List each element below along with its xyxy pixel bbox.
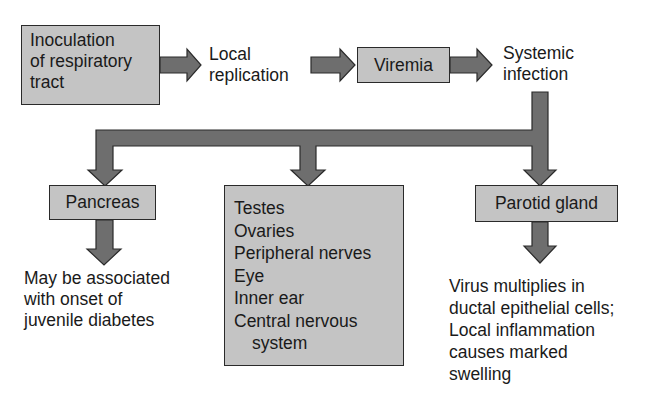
site-item: Central nervous [234,310,403,333]
site-item-continuation: system [234,332,403,355]
branch-arrow-tree-icon [88,92,556,186]
systemic-infection-line-2: infection [503,64,574,85]
systemic-infection-label: Systemic infection [503,43,574,85]
parotid-outcome-line: ductal epithelial cells; [449,297,614,319]
arrow-right-icon [160,49,201,81]
pancreas-outcome-line: May be associated [24,268,170,289]
site-item: Ovaries [234,220,403,243]
viremia-box: Viremia [357,47,450,83]
inoculation-line-1: Inoculation [30,30,159,51]
inoculation-box: Inoculation of respiratory tract [21,25,160,105]
local-replication-line-2: replication [209,65,289,86]
pancreas-outcome: May be associated with onset of juvenile… [24,268,170,331]
arrow-down-icon [524,222,556,263]
pancreas-outcome-line: juvenile diabetes [24,310,170,331]
arrow-down-icon [87,220,121,265]
inoculation-line-2: of respiratory [30,51,159,72]
systemic-infection-line-1: Systemic [503,43,574,64]
viremia-label: Viremia [374,55,433,76]
inoculation-line-3: tract [30,72,159,93]
site-item: Peripheral nerves [234,242,403,265]
site-item: Eye [234,265,403,288]
parotid-box: Parotid gland [475,185,618,222]
parotid-outcome-line: Virus multiplies in [449,275,614,297]
parotid-label: Parotid gland [495,193,598,214]
other-sites-box: Testes Ovaries Peripheral nerves Eye Inn… [224,185,404,366]
local-replication-label: Local replication [209,44,289,86]
pancreas-outcome-line: with onset of [24,289,170,310]
parotid-outcome: Virus multiplies in ductal epithelial ce… [449,275,614,385]
parotid-outcome-line: causes marked [449,341,614,363]
parotid-outcome-line: swelling [449,363,614,385]
arrow-right-icon [450,49,492,81]
local-replication-line-1: Local [209,44,289,65]
arrow-right-icon [311,49,355,81]
pancreas-label: Pancreas [66,192,140,213]
site-item: Inner ear [234,287,403,310]
pancreas-box: Pancreas [49,185,156,220]
parotid-outcome-line: Local inflammation [449,319,614,341]
site-item: Testes [234,197,403,220]
